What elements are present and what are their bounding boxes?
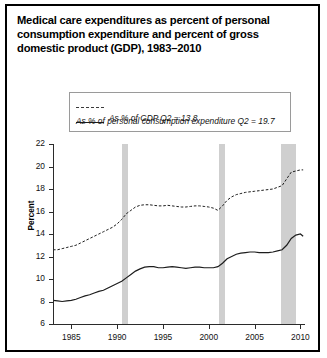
y-tick-label: 20	[29, 161, 45, 171]
y-tick-mark	[49, 144, 53, 145]
x-tick-label: 2010	[280, 332, 320, 342]
x-tick-label: 2005	[235, 332, 275, 342]
series-canvas	[7, 6, 322, 354]
x-tick-mark	[209, 325, 210, 329]
y-tick-mark	[49, 324, 53, 325]
x-tick-mark	[117, 325, 118, 329]
series-line-pce	[53, 170, 303, 250]
y-tick-mark	[49, 302, 53, 303]
y-axis-line	[53, 144, 54, 324]
x-tick-mark	[71, 325, 72, 329]
y-tick-mark	[49, 167, 53, 168]
x-tick-label: 2000	[189, 332, 229, 342]
x-tick-label: 1990	[97, 332, 137, 342]
y-tick-label: 14	[29, 228, 45, 238]
y-tick-label: 10	[29, 273, 45, 283]
plot-area: Percent 68101214161820221985199019952000…	[7, 6, 322, 354]
y-tick-mark	[49, 257, 53, 258]
y-tick-label: 6	[29, 318, 45, 328]
figure-frame: Medical care expenditures as percent of …	[5, 4, 320, 352]
x-tick-label: 1995	[143, 332, 183, 342]
x-tick-label: 1985	[51, 332, 91, 342]
y-tick-label: 18	[29, 183, 45, 193]
x-tick-mark	[163, 325, 164, 329]
y-tick-mark	[49, 189, 53, 190]
x-tick-mark	[255, 325, 256, 329]
y-tick-label: 22	[29, 138, 45, 148]
y-tick-label: 8	[29, 296, 45, 306]
y-tick-mark	[49, 279, 53, 280]
y-tick-label: 12	[29, 251, 45, 261]
x-axis-line	[53, 324, 305, 325]
y-tick-label: 16	[29, 206, 45, 216]
series-line-gdp	[53, 234, 303, 302]
x-tick-mark	[300, 325, 301, 329]
y-tick-mark	[49, 234, 53, 235]
y-tick-mark	[49, 212, 53, 213]
